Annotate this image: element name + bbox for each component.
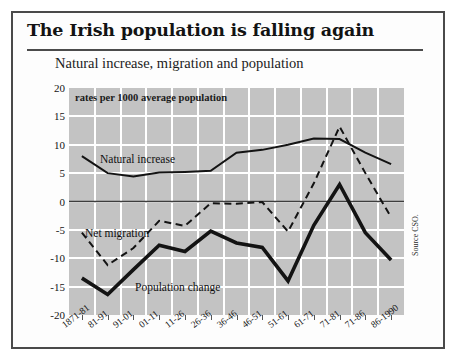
chart-figure: The Irish population is falling again Na… [11,11,445,349]
series-layer [13,13,447,351]
series-label-population-change: Population change [135,281,220,293]
plot-wrapper: rates per 1000 average population 201510… [13,13,447,351]
series-label-natural-increase: Natural increase [100,153,175,165]
source-note: Source CSO. [411,214,420,256]
series-label-net-migration: Net migration [85,227,149,239]
